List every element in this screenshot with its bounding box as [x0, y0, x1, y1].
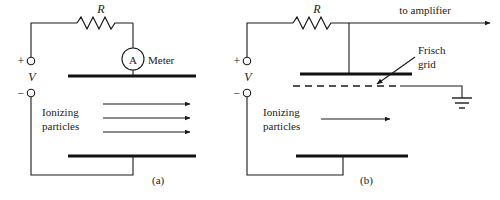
figure-container: R A Meter + V − Ionizing	[0, 0, 500, 200]
panel-b-top-wire	[247, 23, 293, 57]
panel-a: R A Meter + V − Ionizing	[18, 2, 196, 187]
panel-a-resistor-symbol	[77, 17, 133, 29]
panel-a-positive-terminal	[27, 57, 34, 64]
panel-b-particles-label-line1: Ionizing	[263, 106, 300, 118]
panel-b: R to amplifier Frisch grid	[234, 2, 490, 187]
panel-a-particles-label-line2: particles	[42, 120, 79, 132]
panel-a-source-label: V	[28, 70, 37, 84]
panel-a-meter: A	[122, 48, 144, 70]
panel-a-meter-label: Meter	[148, 54, 175, 66]
panel-b-positive-terminal	[243, 57, 250, 64]
panel-b-negative-terminal	[243, 89, 250, 96]
panel-a-top-wire	[31, 23, 77, 57]
panel-a-plus-sign: +	[18, 54, 25, 68]
panel-a-resistor-label: R	[96, 2, 105, 16]
panel-a-minus-sign: −	[18, 86, 25, 100]
panel-b-source-label: V	[244, 70, 253, 84]
panel-b-minus-sign: −	[234, 86, 241, 100]
panel-a-caption: (a)	[152, 174, 165, 187]
panel-a-meter-symbol: A	[129, 54, 137, 66]
panel-a-negative-terminal	[27, 89, 34, 96]
panel-b-ground-symbol	[452, 98, 472, 108]
panel-b-plus-sign: +	[234, 54, 241, 68]
panel-b-frisch-grid-label-line2: grid	[418, 58, 436, 70]
panel-b-output-label: to amplifier	[399, 4, 451, 16]
panel-b-frisch-grid-pointer-arrow	[377, 57, 415, 84]
panel-b-frisch-grid-label-line1: Frisch	[418, 44, 446, 56]
panel-b-caption: (b)	[360, 174, 373, 187]
panel-b-particles-label-line2: particles	[263, 120, 300, 132]
panel-b-grid-ground-wire	[400, 86, 462, 98]
panel-b-resistor-label: R	[312, 2, 321, 16]
circuit-diagram-svg: R A Meter + V − Ionizing	[0, 0, 500, 200]
panel-a-particle-arrows	[103, 104, 190, 132]
panel-a-particles-label-line1: Ionizing	[42, 106, 79, 118]
panel-b-resistor-symbol	[293, 17, 349, 29]
